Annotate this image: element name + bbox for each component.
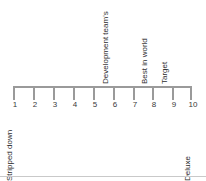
axis-tick-label-9: 9 bbox=[164, 100, 184, 110]
axis-tick-label-1: 1 bbox=[5, 100, 25, 110]
axis-tick-label-3: 3 bbox=[45, 100, 65, 110]
axis-tick-2 bbox=[33, 87, 35, 100]
callout-anchor-target: Target bbox=[169, 0, 179, 84]
axis-tick-9 bbox=[172, 87, 174, 100]
axis-tick-label-5: 5 bbox=[85, 100, 105, 110]
axis-tick-label-8: 8 bbox=[144, 100, 164, 110]
callout-anchor-best-in-world: Best in world bbox=[149, 0, 159, 84]
axis-line bbox=[13, 86, 192, 88]
axis-tick-1 bbox=[13, 87, 15, 100]
axis-tick-3 bbox=[53, 87, 55, 100]
axis-tick-6 bbox=[113, 87, 115, 100]
axis-tick-label-7: 7 bbox=[125, 100, 145, 110]
rating-scale-diagram: 1 2 3 4 5 6 7 8 9 10 Development team's … bbox=[0, 0, 206, 181]
endpoint-label-low: Stripped down bbox=[5, 130, 14, 181]
callout-anchor-development-team: Development team's bbox=[110, 0, 120, 84]
axis-tick-7 bbox=[133, 87, 135, 100]
endpoint-label-high: Deluxe bbox=[183, 156, 192, 181]
callout-label-development-team: Development team's bbox=[101, 11, 110, 84]
axis-tick-label-10: 10 bbox=[183, 100, 203, 110]
page-baseline-rule bbox=[0, 176, 206, 177]
axis-tick-4 bbox=[73, 87, 75, 100]
callout-label-target: Target bbox=[160, 62, 169, 84]
callout-label-best-in-world: Best in world bbox=[140, 38, 149, 84]
axis-tick-10 bbox=[190, 87, 192, 100]
axis-tick-label-2: 2 bbox=[25, 100, 45, 110]
axis-tick-5 bbox=[93, 87, 95, 100]
axis-tick-label-6: 6 bbox=[105, 100, 125, 110]
axis-tick-8 bbox=[152, 87, 154, 100]
axis-tick-label-4: 4 bbox=[65, 100, 85, 110]
